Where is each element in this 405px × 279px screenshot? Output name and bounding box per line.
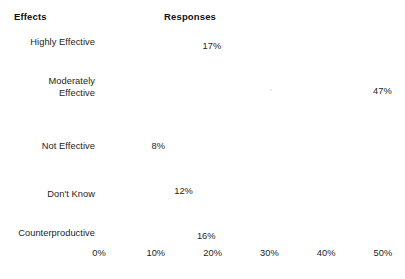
- x-axis: 0%10%20%30%40%50%: [0, 248, 405, 264]
- column-header-effects: Effects: [14, 11, 47, 22]
- scan-artifact: [270, 89, 272, 91]
- bar: [99, 178, 167, 204]
- x-axis-tick-label: 30%: [260, 248, 279, 258]
- bar-value-label: 47%: [373, 86, 392, 96]
- column-header-responses: Responses: [164, 11, 216, 22]
- x-axis-tick-label: 40%: [317, 248, 336, 258]
- plot-area: Highly Effective17%Moderately Effective4…: [0, 26, 405, 244]
- x-axis-tick-label: 10%: [146, 248, 165, 258]
- x-axis-tick-label: 20%: [203, 248, 222, 258]
- bar: [99, 133, 144, 159]
- bar: [99, 78, 366, 104]
- bar-value-label: 12%: [174, 186, 193, 196]
- x-axis-tick-label: 50%: [374, 248, 393, 258]
- bar-category-label: Not Effective: [0, 141, 95, 153]
- bar: [99, 223, 190, 249]
- bar-value-label: 16%: [197, 231, 216, 241]
- bar-chart: Effects Responses Highly Effective17%Mod…: [0, 0, 405, 279]
- x-axis-tick-label: 0%: [92, 248, 106, 258]
- bar-category-label: Moderately Effective: [0, 76, 95, 99]
- bar-row: Counterproductive16%: [0, 26, 405, 70]
- bar-category-label: Counterproductive: [0, 228, 95, 240]
- bar-value-label: 8%: [151, 141, 165, 151]
- bar-category-label: Don't Know: [0, 189, 95, 201]
